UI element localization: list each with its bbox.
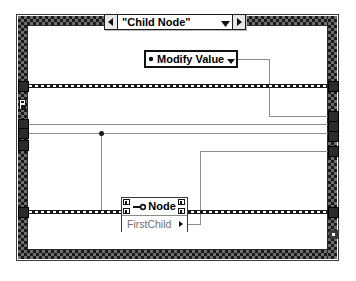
tunnel-right-error-out[interactable] [328,81,339,92]
enum-dropdown-button[interactable] [224,50,237,68]
tunnel-left-ref-2[interactable] [18,128,29,139]
tunnel-right-unwired[interactable] [329,230,338,239]
block-diagram-canvas: "Child Node" Modify Value [0,0,356,281]
case-selector-value: "Child Node" [118,17,218,28]
wire-branch-vertical[interactable] [101,133,102,212]
wire-modify-value-h[interactable] [237,59,270,60]
wire-reference-1[interactable] [26,124,334,125]
case-structure-border-bottom [18,250,337,259]
case-selector-prev-button[interactable] [105,15,118,29]
tunnel-left-ref-3[interactable] [18,140,29,151]
case-selector-label[interactable]: "Child Node" [104,14,246,30]
wire-reference-icon [133,203,146,211]
tunnel-left-error-bottom[interactable] [18,207,29,218]
property-node-title: Node [148,201,176,212]
wire-modify-value-v[interactable] [269,59,270,117]
property-node-header: Node [122,198,187,216]
wire-firstchild-to-tunnel[interactable] [200,151,334,152]
triangle-right-icon [236,18,242,26]
property-row-firstchild[interactable]: FirstChild [122,216,187,232]
triangle-right-icon [175,220,187,228]
chevron-down-icon [227,50,235,68]
wire-modify-value-to-tunnel[interactable] [269,116,334,117]
structure-left-edge-glyph [19,99,26,110]
tunnel-right-out-4[interactable] [328,146,339,157]
reference-terminal-icon-left[interactable] [123,199,131,214]
triangle-left-icon [108,18,114,26]
wire-reference-2[interactable] [26,133,334,134]
tunnel-right-out-3[interactable] [328,131,339,142]
case-selector-next-button[interactable] [232,15,245,29]
tunnel-left-error-in[interactable] [18,81,29,92]
enum-operator-icon [146,52,156,66]
wire-junction-dot [99,131,104,136]
wire-error-top[interactable] [26,84,334,88]
property-node-node[interactable]: Node FirstChild [121,197,188,232]
property-row-label: FirstChild [122,219,175,230]
enum-constant-modify-value[interactable]: Modify Value [144,50,238,68]
reference-terminal-icon-right[interactable] [178,199,186,214]
enum-constant-label: Modify Value [156,54,224,65]
case-selector-dropdown-button[interactable] [218,13,232,31]
tunnel-right-error-bottom[interactable] [328,207,339,218]
chevron-down-icon [221,13,230,31]
wire-firstchild-out-h[interactable] [187,224,201,225]
